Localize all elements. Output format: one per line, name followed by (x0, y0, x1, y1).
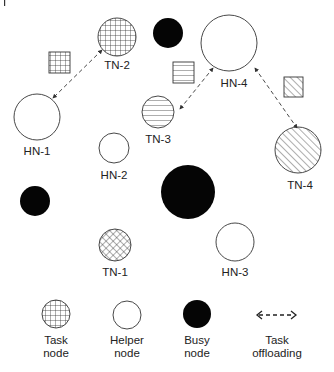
helper-node-icon (216, 223, 254, 261)
legend-busy-node: Busy node (183, 300, 211, 359)
legend-task-node: Task node (42, 300, 70, 359)
task-node-icon (275, 127, 321, 173)
busy-node-icon (183, 300, 211, 328)
node-hn-1[interactable]: HN-1 (14, 94, 60, 157)
node-hn-4[interactable]: HN-4 (201, 15, 257, 89)
busy-node-center[interactable] (161, 165, 215, 219)
legend-task-offloading: Task offloading (252, 311, 302, 359)
task-node-icon (42, 300, 70, 328)
busy-node-left[interactable] (20, 186, 50, 216)
task-diagonal-icon (284, 77, 303, 97)
busy-node-top[interactable] (153, 18, 183, 48)
helper-node-icon (99, 133, 129, 163)
legend-helper-node: Helper node (110, 301, 144, 359)
node-tn-1[interactable]: TN-1 (99, 229, 131, 278)
node-label: TN-3 (145, 133, 171, 145)
helper-node-icon (14, 94, 60, 140)
node-tn-4[interactable]: TN-4 (275, 127, 321, 191)
legend-label: node (184, 347, 210, 359)
node-label: HN-1 (24, 145, 51, 157)
task-node-icon (98, 18, 136, 56)
task-lines-icon (173, 62, 194, 83)
node-hn-2[interactable]: HN-2 (99, 133, 129, 181)
task-offloading-diagram: TN-2 HN-4 HN-1 TN-3 HN-2 TN-4 TN-1 HN-3 … (0, 0, 334, 372)
node-label: HN-2 (101, 169, 128, 181)
legend-label: Task (265, 334, 289, 346)
helper-node-icon (113, 301, 141, 329)
task-node-icon (99, 229, 131, 261)
node-tn-2[interactable]: TN-2 (98, 18, 136, 71)
task-grid-icon (49, 52, 70, 73)
legend-label: Task (44, 334, 68, 346)
legend-label: Busy (184, 334, 210, 346)
legend-label: Helper (110, 334, 144, 346)
legend-label: node (114, 347, 140, 359)
legend-label: offloading (252, 347, 302, 359)
node-label: HN-3 (222, 266, 249, 278)
node-label: TN-2 (104, 59, 130, 71)
node-label: HN-4 (221, 77, 248, 89)
legend-label: node (43, 347, 69, 359)
node-label: TN-1 (102, 266, 128, 278)
node-label: TN-4 (287, 179, 313, 191)
task-node-icon (142, 96, 174, 128)
node-hn-3[interactable]: HN-3 (216, 223, 254, 278)
double-arrow-icon (257, 311, 296, 319)
corner-mark (4, 0, 5, 6)
legend: Task node Helper node Busy node Task off… (42, 300, 302, 359)
helper-node-icon (201, 15, 257, 71)
node-tn-3[interactable]: TN-3 (142, 96, 174, 145)
